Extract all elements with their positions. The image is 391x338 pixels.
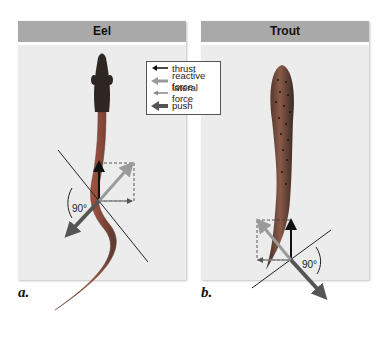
eel-angle-label: 90° [72, 203, 87, 214]
reactive-force-arrow-icon [151, 76, 169, 86]
eel-illustration [55, 54, 116, 311]
thrust-arrow-icon [151, 63, 169, 73]
eel-reactive-force-arrow [99, 167, 129, 201]
panel-a-label: a. [18, 284, 29, 301]
lateral-force-arrow-icon [151, 88, 169, 98]
legend-label-push: push [172, 100, 193, 111]
legend-item-lateral-force: lateral force [147, 87, 220, 100]
legend: thrust reactive force lateral force push [146, 61, 221, 115]
push-arrow-icon [151, 101, 169, 111]
trout-angle-label: 90° [302, 259, 317, 270]
trout-body [266, 65, 294, 270]
panel-b-label: b. [201, 284, 212, 301]
trout-illustration [266, 65, 294, 270]
diagram-art: 90° 90° [0, 0, 391, 338]
